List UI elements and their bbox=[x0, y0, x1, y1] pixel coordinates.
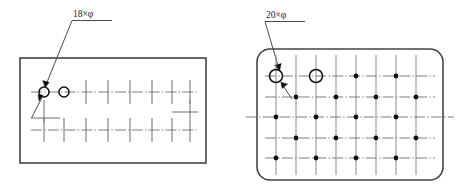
right-plate-hole-dot-r1c7 bbox=[394, 74, 399, 79]
right-plate-hole-dot-r4c2 bbox=[294, 136, 299, 141]
right-plate-hole-dot-r2c4 bbox=[334, 95, 339, 100]
right-plate-hole-dot-r3c7 bbox=[394, 115, 399, 120]
left-plate-label-text: 18×φ bbox=[73, 9, 94, 19]
technical-drawing-canvas: 18×φ bbox=[0, 0, 461, 196]
left-plate-leader-line bbox=[46, 21, 73, 87]
right-plate-hole-dot-r5c7 bbox=[394, 156, 399, 161]
right-plate-label-text: 20×φ bbox=[266, 10, 287, 20]
right-plate-hole-dot-r2c6 bbox=[374, 95, 379, 100]
right-plate-hole-dot-r2c8 bbox=[414, 95, 419, 100]
left-plate-outline bbox=[20, 58, 206, 163]
right-plate-hole-dot-r4c8 bbox=[414, 136, 419, 141]
right-plate-outline bbox=[257, 49, 443, 180]
right-plate-hole-dot-r5c5 bbox=[354, 156, 359, 161]
left-plate-group: 18×φ bbox=[20, 9, 206, 163]
right-plate-hole-dot-r4c6 bbox=[374, 136, 379, 141]
left-plate-leader-line-2 bbox=[32, 97, 43, 119]
right-plate-hole-dot-r2c2 bbox=[294, 95, 299, 100]
right-plate-hole-dot-r5c3 bbox=[314, 156, 319, 161]
right-plate-hole-dot-r3c1 bbox=[274, 115, 279, 120]
right-plate-leader-line bbox=[265, 22, 279, 70]
figure-root: 18×φ bbox=[0, 0, 461, 196]
right-plate-hole-dot-r3c3 bbox=[314, 115, 319, 120]
right-plate-hole-dot-r1c5 bbox=[354, 74, 359, 79]
right-plate-group: 20×φ bbox=[246, 10, 454, 180]
right-plate-hole-dot-r5c1 bbox=[274, 156, 279, 161]
right-plate-hole-dot-r3c5 bbox=[354, 115, 359, 120]
right-plate-hole-dot-r4c4 bbox=[334, 136, 339, 141]
